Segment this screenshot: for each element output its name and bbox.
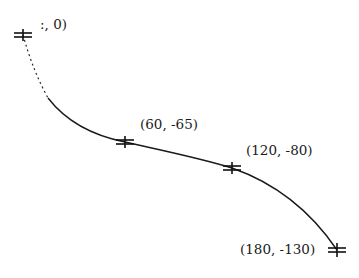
- point-marker-1: [116, 136, 134, 148]
- point-label-1: (60, -65): [140, 118, 198, 132]
- point-marker-3: [328, 243, 346, 257]
- point-label-2: (120, -80): [246, 144, 313, 158]
- point-marker-0: [14, 29, 32, 41]
- curve-diagram: [0, 0, 359, 278]
- point-label-0: :, 0): [40, 18, 67, 32]
- curve-segment-start: [23, 35, 48, 98]
- point-label-3: (180, -130): [240, 243, 315, 257]
- point-marker-2: [223, 162, 241, 174]
